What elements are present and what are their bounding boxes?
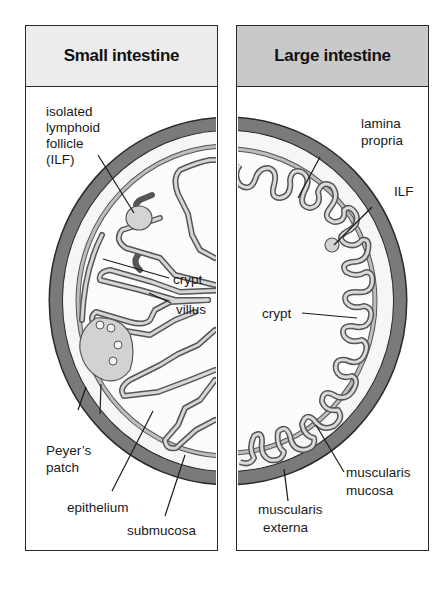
ilf-large — [325, 238, 339, 252]
label-villus: villus — [176, 302, 206, 317]
label-muscularis-mucosa-line1: muscularis — [346, 465, 411, 480]
label-epithelium: epithelium — [67, 500, 129, 515]
label-ilf-line3: follicle — [46, 136, 84, 151]
label-ilf-line2: lymphoid — [46, 120, 100, 135]
label-submucosa: submucosa — [127, 523, 197, 538]
label-crypt-large: crypt — [262, 306, 292, 321]
label-ilf-large: ILF — [394, 184, 414, 199]
ilf-small — [126, 206, 152, 230]
label-muscularis-mucosa-line2: mucosa — [346, 483, 394, 498]
label-peyers-line2: patch — [46, 460, 79, 475]
label-lamina-propria-line2: propria — [361, 133, 404, 148]
label-muscularis-externa-line2: externa — [263, 520, 309, 535]
label-ilf-line4: (ILF) — [46, 152, 75, 167]
label-crypt-small: crypt — [173, 272, 203, 287]
label-ilf-line1: isolated — [46, 104, 93, 119]
label-muscularis-externa-line1: muscularis — [258, 502, 323, 517]
label-lamina-propria-line1: lamina — [361, 116, 401, 131]
intestine-cross-section-diagram: isolated lymphoid follicle (ILF) crypt v… — [0, 0, 447, 597]
label-peyers-line1: Peyer’s — [46, 443, 92, 458]
